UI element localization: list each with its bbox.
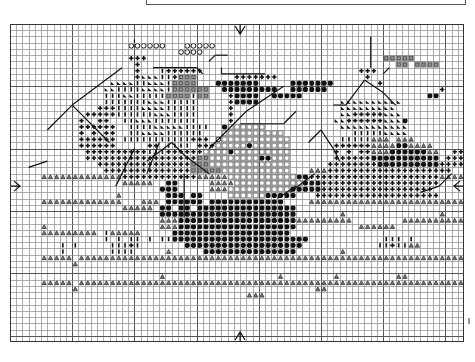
stitch-open-circle xyxy=(185,43,190,48)
stitch-filled-circle xyxy=(259,155,264,160)
stitch-filled-circle xyxy=(241,243,246,248)
stitch-bar xyxy=(186,112,188,116)
stitch-filled-circle xyxy=(191,199,196,204)
stitch-bar xyxy=(155,118,157,122)
stitch-bar xyxy=(168,81,170,85)
stitch-ring-on-gray xyxy=(277,161,283,167)
stitch-bar xyxy=(137,94,139,98)
stitch-bar xyxy=(137,87,139,91)
stitch-ring-on-gray xyxy=(271,136,277,142)
stitch-filled-circle xyxy=(216,205,221,210)
stitch-filled-circle xyxy=(222,124,227,129)
stitch-filled-circle xyxy=(290,249,295,254)
stitch-filled-circle xyxy=(222,199,227,204)
stitch-filled-circle xyxy=(234,243,239,248)
stitch-bar xyxy=(180,106,182,110)
stitch-filled-circle xyxy=(210,243,215,248)
stitch-bar xyxy=(354,131,356,135)
stitch-filled-circle xyxy=(278,93,283,98)
stitch-bar xyxy=(137,100,139,104)
stitch-bar xyxy=(385,237,387,241)
stitch-bar xyxy=(373,131,375,135)
stitch-bar xyxy=(162,94,164,98)
stitch-filled-circle xyxy=(297,174,302,179)
stitch-bar xyxy=(348,137,350,141)
stitch-ring-on-gray xyxy=(221,167,227,173)
stitch-filled-circle xyxy=(278,237,283,242)
stitch-filled-circle xyxy=(303,81,308,86)
stitch-filled-circle xyxy=(278,230,283,235)
stitch-filled-circle xyxy=(265,193,270,198)
stitch-ring-on-gray xyxy=(240,161,246,167)
stitch-bar xyxy=(193,131,195,135)
stitch-filled-circle xyxy=(216,230,221,235)
stitch-filled-circle xyxy=(228,230,233,235)
stitch-filled-circle xyxy=(290,193,295,198)
stitch-filled-circle xyxy=(172,212,177,217)
stitch-filled-circle xyxy=(234,212,239,217)
stitch-filled-circle xyxy=(384,155,389,160)
stitch-filled-circle xyxy=(396,162,401,167)
stitch-ring-on-gray xyxy=(240,142,246,148)
stitch-filled-circle xyxy=(216,249,221,254)
stitch-bar xyxy=(342,137,344,141)
stitch-filled-circle xyxy=(241,199,246,204)
header-frame xyxy=(146,0,466,5)
stitch-filled-circle xyxy=(247,243,252,248)
stitch-filled-circle xyxy=(272,230,277,235)
stitch-filled-circle xyxy=(222,230,227,235)
stitch-filled-circle xyxy=(278,205,283,210)
stitch-filled-circle xyxy=(247,205,252,210)
stitch-filled-circle xyxy=(191,237,196,242)
stitch-filled-circle xyxy=(303,87,308,92)
stitch-bar xyxy=(124,243,126,247)
stitch-bar xyxy=(130,125,132,129)
stitch-filled-circle xyxy=(228,205,233,210)
stitch-ring-on-gray xyxy=(240,130,246,136)
stitch-bar xyxy=(168,100,170,104)
stitch-filled-circle xyxy=(421,155,426,160)
stitch-filled-circle xyxy=(172,187,177,192)
stitch-bar xyxy=(112,249,114,253)
pattern-grid xyxy=(10,24,464,342)
stitch-bar xyxy=(186,106,188,110)
stitch-ring-on-gray xyxy=(271,167,277,173)
stitch-ring-on-gray xyxy=(277,167,283,173)
stitch-filled-circle xyxy=(228,237,233,242)
stitch-filled-circle xyxy=(178,230,183,235)
stitch-ring-on-gray xyxy=(246,130,252,136)
stitch-filled-circle xyxy=(272,243,277,248)
stitch-filled-circle xyxy=(203,212,208,217)
stitch-bar xyxy=(137,125,139,129)
stitch-filled-circle xyxy=(396,155,401,160)
stitch-ring-on-gray xyxy=(246,161,252,167)
stitch-filled-circle xyxy=(234,81,239,86)
stitch-bar xyxy=(162,75,164,79)
stitch-open-circle xyxy=(179,50,184,55)
stitch-bar xyxy=(398,237,400,241)
stitch-bar xyxy=(186,100,188,104)
stitch-bar xyxy=(124,100,126,104)
stitch-bar xyxy=(193,112,195,116)
stitch-filled-circle xyxy=(160,187,165,192)
stitch-filled-circle xyxy=(234,230,239,235)
stitch-filled-circle xyxy=(203,230,208,235)
stitch-bar xyxy=(106,231,108,235)
stitch-bar xyxy=(106,94,108,98)
stitch-filled-circle xyxy=(228,218,233,223)
stitch-filled-circle xyxy=(328,81,333,86)
stitch-ring-on-gray xyxy=(265,136,271,142)
stitch-filled-circle xyxy=(191,218,196,223)
stitch-bar xyxy=(379,131,381,135)
stitch-filled-circle xyxy=(228,199,233,204)
stitch-filled-circle xyxy=(203,249,208,254)
stitch-filled-circle xyxy=(178,193,183,198)
stitch-ring-on-gray xyxy=(215,161,221,167)
stitch-filled-circle xyxy=(222,212,227,217)
stitch-filled-circle xyxy=(191,193,196,198)
stitch-filled-circle xyxy=(421,162,426,167)
stitch-filled-circle xyxy=(321,87,326,92)
stitch-filled-circle xyxy=(178,199,183,204)
stitch-bar xyxy=(130,249,132,253)
stitch-open-circle xyxy=(129,43,134,48)
